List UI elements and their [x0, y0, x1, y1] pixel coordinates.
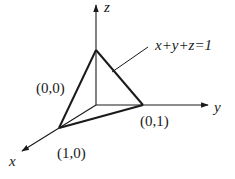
vertex-label-x: (1,0) [57, 145, 86, 162]
vertex-label-y: (0,1) [140, 113, 169, 130]
tetrahedron-diagram: z y x x+y+z=1 (0,0) (0,1) (1,0) [0, 0, 235, 179]
vertex-label-z: (0,0) [36, 80, 65, 97]
y-axis-label: y [212, 99, 221, 115]
edge-x-to-y [59, 105, 143, 128]
plane-label: x+y+z=1 [154, 37, 212, 53]
edge-z-to-y [96, 50, 143, 105]
z-axis-label: z [103, 0, 110, 15]
x-axis-label: x [8, 153, 16, 169]
plane-leader-line [112, 47, 148, 72]
